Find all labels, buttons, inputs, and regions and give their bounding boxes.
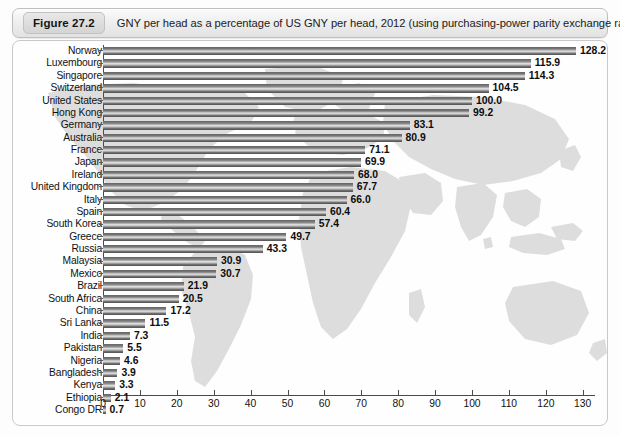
bar bbox=[103, 208, 326, 216]
bar bbox=[103, 307, 166, 315]
bar bbox=[103, 332, 130, 340]
bar bbox=[103, 97, 472, 105]
chart-row: India7.3 bbox=[13, 330, 608, 342]
bar bbox=[103, 134, 402, 142]
bar-value-label: 71.1 bbox=[369, 144, 389, 156]
bar-value-label: 30.7 bbox=[220, 268, 240, 280]
category-label: Sri Lanka bbox=[60, 317, 102, 329]
bar bbox=[103, 171, 354, 179]
chart-row: Malaysia30.9 bbox=[13, 255, 608, 267]
bar-value-label: 3.3 bbox=[119, 379, 133, 391]
x-axis-tick bbox=[288, 390, 289, 395]
bar bbox=[103, 47, 576, 55]
x-axis-tick bbox=[103, 390, 104, 395]
x-axis-tick-label: 110 bbox=[501, 398, 517, 409]
bar-value-label: 104.5 bbox=[493, 82, 519, 94]
chart-row: South Africa20.5 bbox=[13, 293, 608, 305]
x-axis-tick-label: 50 bbox=[282, 398, 293, 409]
chart-row: Luxembourg115.9 bbox=[13, 57, 608, 69]
x-axis-tick bbox=[435, 390, 436, 395]
bar bbox=[103, 344, 123, 352]
bar bbox=[103, 72, 525, 80]
x-axis-tick bbox=[251, 390, 252, 395]
bar bbox=[103, 183, 353, 191]
bar-value-label: 2.1 bbox=[115, 392, 129, 404]
bar-value-label: 128.2 bbox=[580, 45, 606, 57]
bar bbox=[103, 381, 115, 389]
category-label: Italy bbox=[84, 194, 102, 206]
chart-row: Nigeria4.6 bbox=[13, 355, 608, 367]
category-label: Bangladesh bbox=[49, 367, 102, 379]
x-axis-tick bbox=[324, 390, 325, 395]
x-axis-tick-label: 20 bbox=[171, 398, 182, 409]
bar-value-label: 20.5 bbox=[183, 293, 203, 305]
category-label: Norway bbox=[68, 45, 102, 57]
bar bbox=[103, 158, 361, 166]
chart-frame: Norway128.2Luxembourg115.9Singapore114.3… bbox=[12, 40, 608, 426]
bar bbox=[103, 270, 216, 278]
bar-value-label: 67.7 bbox=[357, 181, 377, 193]
bar-value-label: 21.9 bbox=[188, 280, 208, 292]
category-label: Ethiopia bbox=[66, 392, 102, 404]
x-axis-tick-label: 130 bbox=[574, 398, 591, 409]
bar-value-label: 30.9 bbox=[221, 255, 241, 267]
category-label: Germany bbox=[61, 119, 102, 131]
category-label: Kenya bbox=[74, 379, 102, 391]
bar bbox=[103, 369, 117, 377]
chart-row: Mexico30.7 bbox=[13, 268, 608, 280]
bar bbox=[103, 319, 145, 327]
category-label: Ireland bbox=[72, 169, 102, 181]
chart-row: Italy66.0 bbox=[13, 194, 608, 206]
category-label: United States bbox=[42, 95, 102, 107]
x-axis-tick-label: 100 bbox=[463, 398, 480, 409]
x-axis-tick bbox=[398, 390, 399, 395]
bar-value-label: 4.6 bbox=[124, 355, 138, 367]
x-axis-tick-label: 30 bbox=[208, 398, 219, 409]
x-axis-tick bbox=[472, 390, 473, 395]
bar bbox=[103, 109, 469, 117]
chart-row: Greece49.7 bbox=[13, 231, 608, 243]
chart-row: Spain60.4 bbox=[13, 206, 608, 218]
category-label: South Africa bbox=[48, 293, 102, 305]
x-axis-tick-label: 60 bbox=[319, 398, 330, 409]
chart-row: Ireland68.0 bbox=[13, 169, 608, 181]
x-axis-tick-label: 0 bbox=[100, 398, 106, 409]
bar-value-label: 69.9 bbox=[365, 156, 385, 168]
chart-row: Brazil21.9 bbox=[13, 280, 608, 292]
x-axis-tick bbox=[214, 390, 215, 395]
category-label: Switzerland bbox=[50, 82, 102, 94]
bar bbox=[103, 220, 315, 228]
figure-container: Figure 27.2 GNY per head as a percentage… bbox=[0, 0, 620, 436]
category-label: Pakistan bbox=[64, 342, 102, 354]
bar bbox=[103, 84, 489, 92]
x-axis-tick bbox=[583, 390, 584, 395]
bar bbox=[103, 357, 120, 365]
bar-value-label: 99.2 bbox=[473, 107, 493, 119]
bar-value-label: 3.9 bbox=[121, 367, 135, 379]
x-axis-tick-label: 80 bbox=[392, 398, 403, 409]
category-label: Australia bbox=[63, 132, 102, 144]
chart-row: Russia43.3 bbox=[13, 243, 608, 255]
bar-value-label: 11.5 bbox=[149, 317, 169, 329]
chart-row: Switzerland104.5 bbox=[13, 82, 608, 94]
chart-row: Pakistan5.5 bbox=[13, 342, 608, 354]
bar bbox=[103, 146, 365, 154]
x-axis-tick bbox=[509, 390, 510, 395]
category-label: France bbox=[71, 144, 102, 156]
bar bbox=[103, 245, 263, 253]
chart-row: France71.1 bbox=[13, 144, 608, 156]
figure-number-badge: Figure 27.2 bbox=[23, 12, 105, 34]
bar-value-label: 100.0 bbox=[476, 95, 502, 107]
chart-row: Australia80.9 bbox=[13, 132, 608, 144]
figure-caption: GNY per head as a percentage of US GNY p… bbox=[117, 17, 620, 29]
chart-row: Germany83.1 bbox=[13, 119, 608, 131]
bar-value-label: 7.3 bbox=[134, 330, 148, 342]
bar bbox=[103, 59, 531, 67]
category-label: Japan bbox=[75, 156, 102, 168]
chart-row: Norway128.2 bbox=[13, 45, 608, 57]
chart-row: China17.2 bbox=[13, 305, 608, 317]
category-label: China bbox=[76, 305, 102, 317]
chart-row: Hong Kong99.2 bbox=[13, 107, 608, 119]
x-axis-tick bbox=[361, 390, 362, 395]
bar bbox=[103, 121, 410, 129]
